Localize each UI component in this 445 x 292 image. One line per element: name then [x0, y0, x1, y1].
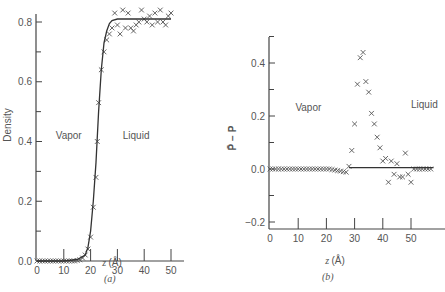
- y-tick-label: 0.2: [18, 196, 32, 207]
- y-axis-label: Density: [2, 108, 13, 141]
- y-tick-label: 0.2: [251, 111, 265, 122]
- y-tick-label: 0.8: [18, 17, 32, 28]
- density-chart: 0.00.20.40.60.801020304050z (Å)DensityVa…: [0, 0, 222, 292]
- x-tick-label: 0: [34, 265, 40, 276]
- x-tick-label: 40: [139, 265, 151, 276]
- y-tick-label: 0.0: [251, 164, 265, 175]
- caption-a: (a): [104, 273, 116, 284]
- x-tick-label: 10: [58, 265, 70, 276]
- x-tick-label: 20: [321, 233, 333, 244]
- annotation-vapor: Vapor: [295, 102, 322, 113]
- y-tick-label: 0.4: [251, 58, 265, 69]
- y-tick-label: −0.2: [245, 217, 265, 228]
- caption-b: (b): [322, 271, 334, 282]
- y-tick-label: 0.0: [18, 256, 32, 267]
- x-tick-label: 30: [349, 233, 361, 244]
- pressure-chart: −0.20.00.20.401020304050z (Å)P̄ − PVapor…: [222, 0, 445, 292]
- data-markers: [268, 50, 434, 185]
- y-tick-label: 0.6: [18, 76, 32, 87]
- x-axis-label: z (Å): [101, 256, 122, 268]
- y-tick-label: 0.4: [18, 136, 32, 147]
- x-tick-label: 50: [405, 233, 417, 244]
- x-tick-label: 0: [267, 233, 273, 244]
- annotation-liquid: Liquid: [123, 130, 150, 141]
- annotation-vapor: Vapor: [56, 130, 83, 141]
- x-tick-label: 40: [377, 233, 389, 244]
- x-tick-label: 50: [165, 265, 177, 276]
- chart-panel-b: −0.20.00.20.401020304050z (Å)P̄ − PVapor…: [222, 0, 445, 292]
- chart-panel-a: 0.00.20.40.60.801020304050z (Å)DensityVa…: [0, 0, 222, 292]
- x-axis-label: z (Å): [324, 254, 345, 266]
- annotation-liquid: Liquid: [411, 99, 438, 110]
- x-tick-label: 10: [293, 233, 305, 244]
- y-axis-label: P̄ − P: [227, 125, 238, 150]
- x-tick-label: 20: [85, 265, 97, 276]
